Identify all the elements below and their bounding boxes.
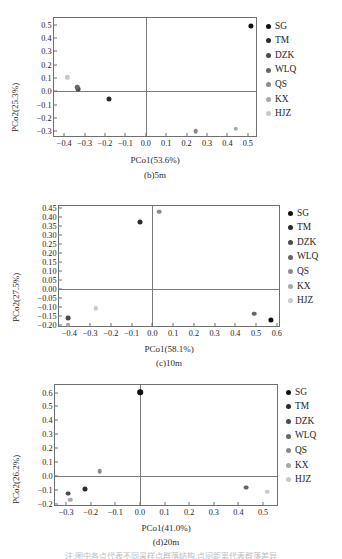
legend-item-dzk[interactable]: DZK <box>266 48 296 63</box>
data-point-kx <box>68 498 72 502</box>
legend-item-dzk[interactable]: DZK <box>288 235 318 250</box>
y-tick-label: −0.1 <box>38 485 55 494</box>
y-tick-label: 0.4 <box>42 416 55 425</box>
y-tick-label: 0.1 <box>42 457 55 466</box>
x-axis-label-10m: PCo1(58.1%) <box>58 344 280 354</box>
x-tick-mark <box>64 133 65 136</box>
y-tick-mark <box>59 271 62 272</box>
legend-item-sg[interactable]: SG <box>286 385 316 400</box>
data-point-tm <box>137 219 142 224</box>
zero-line-horizontal <box>59 289 279 290</box>
x-tick-mark <box>84 133 85 136</box>
x-tick-mark <box>105 133 106 136</box>
panel-caption-10m: (c)10m <box>58 358 280 368</box>
y-tick-mark <box>59 316 62 317</box>
y-tick-mark <box>55 392 58 393</box>
legend-item-hjz[interactable]: HJZ <box>288 294 318 309</box>
legend-marker-icon <box>266 111 271 116</box>
y-tick-mark <box>59 216 62 217</box>
y-tick-label: 0.2 <box>42 444 55 453</box>
x-tick-mark <box>276 323 277 326</box>
y-tick-mark <box>59 289 62 290</box>
x-tick-label: −0.3 <box>59 505 74 517</box>
legend-item-label: DZK <box>297 238 316 247</box>
y-tick-label: −0.15 <box>38 312 59 321</box>
y-tick-mark <box>55 489 58 490</box>
legend-item-kx[interactable]: KX <box>286 458 316 473</box>
y-tick-mark <box>59 243 62 244</box>
legend-marker-icon <box>266 53 271 58</box>
legend-20m: SGTMDZKWLQQSKXHJZ <box>286 385 316 487</box>
x-tick-label: −0.4 <box>62 326 77 338</box>
legend-item-tm[interactable]: TM <box>266 34 296 49</box>
y-tick-label: 0.3 <box>42 430 55 439</box>
x-tick-label: −0.1 <box>124 326 139 338</box>
legend-item-sg[interactable]: SG <box>266 19 296 34</box>
legend-5m: SGTMDZKWLQQSKXHJZ <box>266 19 296 121</box>
x-tick-label: 0.0 <box>147 326 157 338</box>
legend-item-label: KX <box>295 461 309 470</box>
legend-marker-icon <box>288 240 293 245</box>
legend-item-label: TM <box>295 402 309 411</box>
zero-line-vertical <box>146 18 147 136</box>
legend-item-tm[interactable]: TM <box>288 221 318 236</box>
x-tick-mark <box>152 323 153 326</box>
data-point-kx <box>234 126 238 130</box>
legend-item-qs[interactable]: QS <box>266 77 296 92</box>
zero-line-vertical <box>152 206 153 326</box>
x-tick-mark <box>207 133 208 136</box>
x-tick-mark <box>213 502 214 505</box>
legend-item-wlq[interactable]: WLQ <box>286 429 316 444</box>
legend-item-label: HJZ <box>297 296 313 305</box>
x-tick-label: 0.4 <box>222 136 232 148</box>
y-tick-label: 0.15 <box>42 258 59 267</box>
legend-marker-icon <box>266 68 271 73</box>
x-tick-label: −0.2 <box>98 136 113 148</box>
panel-10m: PCo2(27.5%) −0.20−0.15−0.10−0.050.000.05… <box>0 190 342 370</box>
legend-item-wlq[interactable]: WLQ <box>266 63 296 78</box>
data-point-sg <box>248 23 253 28</box>
legend-marker-icon <box>286 390 291 395</box>
y-tick-label: −0.2 <box>38 499 55 508</box>
data-point-qs <box>157 209 162 214</box>
legend-item-label: SG <box>295 388 307 397</box>
y-tick-mark <box>54 118 57 119</box>
legend-marker-icon <box>266 82 271 87</box>
x-tick-mark <box>227 133 228 136</box>
x-tick-mark <box>247 133 248 136</box>
y-tick-label: 0.20 <box>42 248 59 257</box>
legend-item-kx[interactable]: KX <box>266 92 296 107</box>
x-tick-mark <box>214 323 215 326</box>
legend-item-label: HJZ <box>275 109 291 118</box>
x-tick-label: 0.2 <box>189 326 199 338</box>
y-tick-mark <box>55 420 58 421</box>
y-tick-mark <box>59 234 62 235</box>
legend-item-kx[interactable]: KX <box>288 279 318 294</box>
x-tick-mark <box>90 502 91 505</box>
legend-item-hjz[interactable]: HJZ <box>286 473 316 488</box>
legend-marker-icon <box>286 434 291 439</box>
legend-item-label: QS <box>275 80 287 89</box>
y-tick-mark <box>59 307 62 308</box>
legend-item-tm[interactable]: TM <box>286 400 316 415</box>
legend-item-hjz[interactable]: HJZ <box>266 107 296 122</box>
y-tick-label: 0.5 <box>41 20 54 29</box>
legend-item-label: SG <box>275 22 287 31</box>
y-tick-label: 0.10 <box>42 267 59 276</box>
x-tick-label: 0.4 <box>233 505 243 517</box>
y-tick-label: 0.4 <box>41 34 54 43</box>
legend-item-qs[interactable]: QS <box>286 443 316 458</box>
zero-line-horizontal <box>55 476 277 477</box>
legend-item-wlq[interactable]: WLQ <box>288 250 318 265</box>
x-tick-label: 0.1 <box>168 326 178 338</box>
figure-footnote: 注:图中各点代表不同采样点群落结构,点间距离代表群落差异 <box>0 550 342 559</box>
y-tick-label: −0.1 <box>37 100 54 109</box>
legend-item-qs[interactable]: QS <box>288 264 318 279</box>
data-point-tm <box>83 486 88 491</box>
x-tick-mark <box>90 323 91 326</box>
plot-area-10m: −0.20−0.15−0.10−0.050.000.050.100.150.20… <box>58 205 280 327</box>
x-tick-mark <box>145 133 146 136</box>
legend-item-dzk[interactable]: DZK <box>286 414 316 429</box>
legend-item-label: KX <box>297 282 311 291</box>
legend-item-sg[interactable]: SG <box>288 206 318 221</box>
